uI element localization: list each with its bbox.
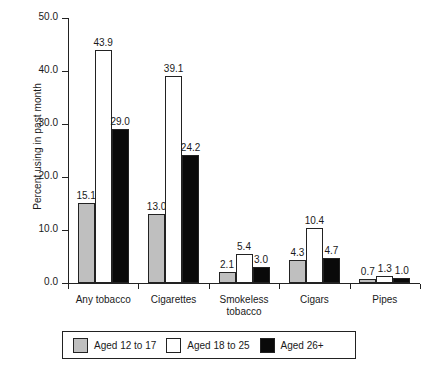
chart-legend: Aged 12 to 17Aged 18 to 25Aged 26+ (62, 331, 356, 359)
bar-value-label: 3.0 (246, 254, 276, 265)
plot-area: 0.010.020.030.040.050.0 15.143.929.013.0… (68, 18, 420, 283)
bar (148, 214, 165, 283)
bar (165, 76, 182, 283)
x-axis-tick (279, 284, 280, 289)
bar-value-label: 4.7 (316, 245, 346, 256)
bar (112, 129, 129, 283)
legend-swatch-gray (73, 338, 88, 353)
x-axis-tick (350, 284, 351, 289)
bar-value-label: 10.4 (299, 215, 329, 226)
bar (253, 267, 270, 283)
legend-swatch-black (260, 338, 275, 353)
bar (182, 155, 199, 283)
y-axis-tick-label: 40.0 (39, 64, 58, 75)
y-axis-tick: 40.0 (62, 71, 68, 72)
legend-label: Aged 12 to 17 (94, 340, 156, 351)
x-axis-tick (68, 284, 69, 289)
x-axis-group-label: Pipes (342, 294, 428, 306)
bar (393, 278, 410, 283)
y-axis-tick: 50.0 (62, 18, 68, 19)
x-axis-tick (209, 284, 210, 289)
bar (323, 258, 340, 283)
legend-item: Aged 12 to 17 (73, 338, 156, 353)
y-axis-tick: 30.0 (62, 124, 68, 125)
y-axis-tick: 20.0 (62, 177, 68, 178)
bar-value-label: 29.0 (105, 116, 135, 127)
legend-swatch-white (166, 338, 181, 353)
bar (219, 272, 236, 283)
legend-label: Aged 26+ (281, 340, 324, 351)
y-axis-line (68, 18, 69, 284)
legend-item: Aged 18 to 25 (166, 338, 249, 353)
bar-value-label: 5.4 (229, 241, 259, 252)
x-axis-line (68, 283, 420, 284)
x-axis-tick (420, 284, 421, 289)
legend-item: Aged 26+ (260, 338, 324, 353)
bar (359, 279, 376, 283)
legend-label: Aged 18 to 25 (187, 340, 249, 351)
bar (95, 50, 112, 283)
bar-value-label: 24.2 (176, 142, 206, 153)
y-axis-tick: 10.0 (62, 230, 68, 231)
bar-value-label: 39.1 (159, 63, 189, 74)
y-axis-tick-label: 20.0 (39, 170, 58, 181)
bar (78, 203, 95, 283)
bar-value-label: 43.9 (88, 37, 118, 48)
y-axis-tick-label: 10.0 (39, 223, 58, 234)
bar (289, 260, 306, 283)
x-axis-tick (138, 284, 139, 289)
bar (376, 276, 393, 283)
y-axis-tick-label: 0.0 (44, 276, 58, 287)
y-axis-tick-label: 50.0 (39, 11, 58, 22)
y-axis-tick-label: 30.0 (39, 117, 58, 128)
chart-figure: Percent using in past month 0.010.020.03… (0, 0, 429, 368)
bar-value-label: 1.0 (387, 265, 417, 276)
